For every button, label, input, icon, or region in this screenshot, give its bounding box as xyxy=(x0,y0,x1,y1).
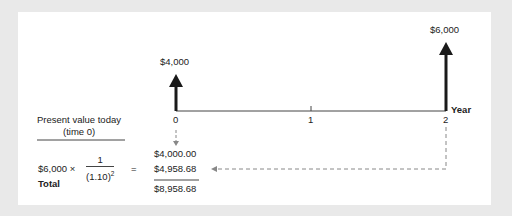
arrow-up-icon xyxy=(169,74,183,87)
tick-label-2: 2 xyxy=(443,114,448,125)
arrow-up-icon xyxy=(439,42,453,55)
arrow-down-icon xyxy=(173,141,179,146)
denominator-exponent: 2 xyxy=(111,170,115,177)
pv-header-line2: (time 0) xyxy=(63,126,95,137)
tick-label-1: 1 xyxy=(308,114,313,125)
pv-header-line1: Present value today xyxy=(37,114,121,125)
equals-sign: = xyxy=(131,163,137,174)
discount-fraction: 1 (1.10)2 xyxy=(86,154,114,182)
pv-value-year-0: $4,000.00 xyxy=(154,148,196,159)
fraction-numerator: 1 xyxy=(98,154,103,165)
total-label: Total xyxy=(38,178,60,189)
cash-flow-year-2: $6,000 xyxy=(430,24,459,35)
arrow-left-icon xyxy=(211,166,217,172)
denominator-base: (1.10) xyxy=(86,171,111,182)
fraction-bar xyxy=(86,166,114,167)
pv-total-value: $8,958.68 xyxy=(154,183,196,194)
pv-value-year-2: $4,958.68 xyxy=(154,163,196,174)
formula-lhs: $6,000 × xyxy=(38,163,75,174)
cash-flow-year-0: $4,000 xyxy=(160,56,189,67)
dashed-discount-path xyxy=(218,127,446,169)
fraction-denominator: (1.10)2 xyxy=(86,168,114,182)
tick-label-0: 0 xyxy=(173,114,178,125)
axis-label-year: Year xyxy=(451,104,471,115)
